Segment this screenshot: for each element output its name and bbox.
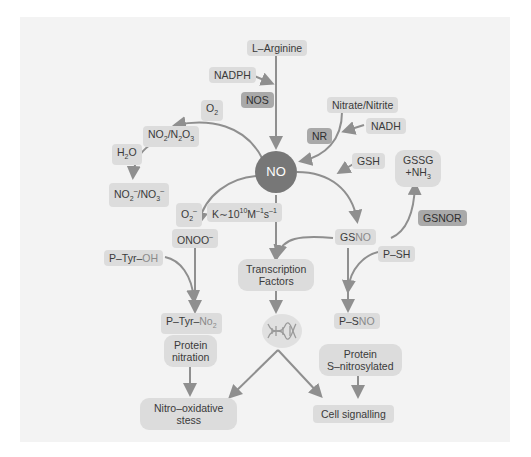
node-cell-signalling: Cell signalling bbox=[313, 405, 394, 423]
node-o2: O2 bbox=[201, 100, 223, 121]
node-p-tyr-no2: P–Tyr–No2 bbox=[161, 313, 222, 334]
node-nos-enzyme: NOS bbox=[241, 92, 274, 108]
node-superoxide: O2– bbox=[176, 203, 202, 227]
node-gsh: GSH bbox=[352, 153, 385, 169]
pathway-arrows bbox=[0, 0, 531, 457]
node-gsno: GSNO bbox=[335, 229, 376, 245]
node-nadh: NADH bbox=[366, 118, 406, 134]
node-h2o: H2O bbox=[112, 144, 142, 165]
node-protein-nitration: Protein nitration bbox=[164, 335, 217, 367]
node-gssg-nh3: GSSG +NH3 bbox=[395, 150, 441, 187]
node-nitric-oxide-center: NO bbox=[255, 151, 297, 193]
dna-helix-icon bbox=[262, 314, 302, 348]
node-nitro-oxidative-stress: Nitro–oxidative stess bbox=[140, 398, 237, 430]
node-transcription-factors: Transcription Factors bbox=[238, 259, 314, 291]
node-label: L–Arginine bbox=[252, 42, 302, 54]
node-p-sh: P–SH bbox=[378, 246, 415, 262]
node-peroxynitrite: ONOO– bbox=[172, 229, 218, 248]
node-p-sno: P–SNO bbox=[334, 313, 380, 329]
dna-glyph bbox=[262, 314, 302, 348]
node-rate-constant: K∼1010M–1s–1 bbox=[207, 203, 282, 222]
node-nitrate-nitrite: Nitrate/Nitrite bbox=[327, 97, 398, 113]
node-protein-s-nitrosylated: Protein S–nitrosylated bbox=[319, 344, 402, 376]
node-p-tyr-oh: P–Tyr–OH bbox=[104, 250, 163, 266]
node-gsnor-enzyme: GSNOR bbox=[418, 210, 467, 226]
node-nadph: NADPH bbox=[209, 67, 256, 83]
node-nr-enzyme: NR bbox=[307, 128, 332, 144]
node-no2-n2o3: NO2/N2O3 bbox=[143, 126, 199, 147]
node-l-arginine: L–Arginine bbox=[247, 40, 307, 56]
node-nitrite-nitrate-ions: NO2–/NO3– bbox=[109, 183, 169, 207]
